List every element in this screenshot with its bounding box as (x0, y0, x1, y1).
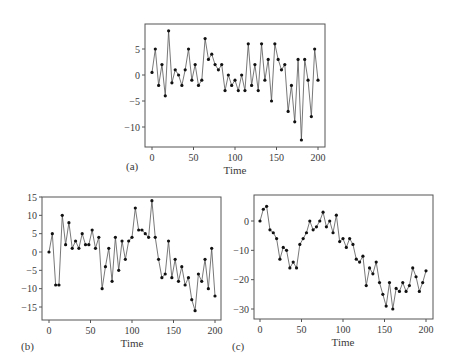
data-point-marker (282, 246, 285, 249)
data-point-marker (325, 225, 328, 228)
data-point-marker (295, 266, 298, 269)
data-point-marker (298, 243, 301, 246)
data-point-marker (262, 208, 265, 211)
y-tick-label: 0 (244, 216, 249, 227)
y-tick-label: −20 (233, 274, 249, 285)
data-point-marker (268, 228, 271, 231)
data-point-marker (335, 214, 338, 217)
y-tick-label: −30 (233, 304, 249, 315)
data-point-marker (285, 249, 288, 252)
data-point-marker (265, 205, 268, 208)
x-tick-label: 200 (419, 324, 434, 335)
data-point-marker (404, 290, 407, 293)
data-point-marker (378, 281, 381, 284)
x-tick-label: 100 (336, 324, 351, 335)
data-point-marker (418, 290, 421, 293)
data-point-marker (331, 231, 334, 234)
data-point-marker (345, 246, 348, 249)
data-point-marker (424, 269, 427, 272)
data-point-marker (305, 231, 308, 234)
x-tick-label: 150 (377, 324, 392, 335)
data-point-marker (388, 281, 391, 284)
data-point-marker (275, 237, 278, 240)
data-point-marker (411, 266, 414, 269)
data-point-marker (338, 240, 341, 243)
series-line (260, 206, 426, 309)
data-point-marker (308, 219, 311, 222)
data-point-marker (375, 260, 378, 263)
data-point-marker (341, 237, 344, 240)
data-point-marker (272, 231, 275, 234)
data-point-marker (368, 266, 371, 269)
x-axis-label: Time (332, 336, 355, 348)
data-point-marker (312, 228, 315, 231)
data-point-marker (361, 255, 364, 258)
y-tick-label: −10 (233, 245, 249, 256)
data-point-marker (401, 281, 404, 284)
data-point-marker (328, 219, 331, 222)
data-point-marker (348, 237, 351, 240)
data-point-marker (258, 219, 261, 222)
data-point-marker (351, 243, 354, 246)
data-point-marker (355, 258, 358, 261)
data-point-marker (408, 284, 411, 287)
x-tick-label: 50 (297, 324, 307, 335)
chart-c-plot: 0501001502000−10−20−30Time (0, 0, 459, 364)
panel-label-c: (c) (232, 340, 244, 352)
data-point-marker (381, 293, 384, 296)
data-point-marker (398, 290, 401, 293)
data-point-marker (371, 272, 374, 275)
x-tick-label: 0 (258, 324, 263, 335)
data-point-marker (321, 211, 324, 214)
data-point-marker (421, 281, 424, 284)
data-point-marker (414, 275, 417, 278)
data-point-marker (391, 307, 394, 310)
data-point-marker (395, 287, 398, 290)
data-point-marker (385, 304, 388, 307)
data-point-marker (315, 225, 318, 228)
data-point-marker (365, 284, 368, 287)
data-point-marker (358, 260, 361, 263)
data-point-marker (278, 258, 281, 261)
data-point-marker (302, 237, 305, 240)
data-point-marker (292, 260, 295, 263)
data-point-marker (288, 266, 291, 269)
data-point-marker (318, 219, 321, 222)
